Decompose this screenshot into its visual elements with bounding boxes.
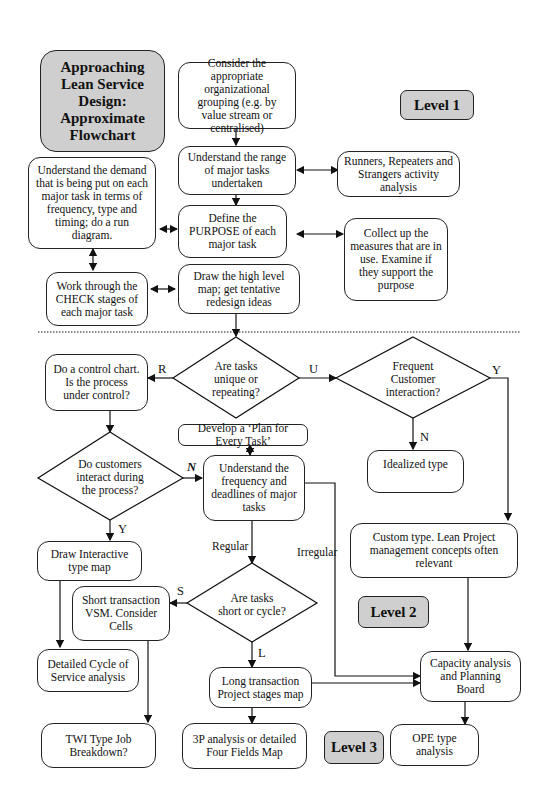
edge-label-irregular: Irregular	[297, 546, 337, 558]
node-range-of-tasks: Understand the range of major tasks unde…	[178, 146, 296, 195]
node-runners-repeaters: Runners, Repeaters and Strangers activit…	[337, 151, 460, 197]
node-check-stages: Work through the CHECK stages of each ma…	[46, 272, 148, 326]
node-high-level-map: Draw the high level map; get tentative r…	[178, 264, 300, 314]
node-capacity-analysis: Capacity analysis and Planning Board	[420, 651, 521, 702]
decision-short-or-cycle: Are tasks short or cycle?	[218, 585, 286, 625]
node-long-transaction: Long transaction Project stages map	[209, 667, 312, 708]
edge-label-regular: Regular	[212, 540, 248, 552]
node-control-chart: Do a control chart. Is the process under…	[45, 354, 148, 411]
node-twi-type: TWI Type Job Breakdown?	[41, 723, 156, 768]
node-ope-type: OPE type analysis	[390, 724, 479, 766]
edge-label-y-interact: Y	[118, 522, 127, 537]
node-organizational-grouping: Consider the appropriate organizational …	[178, 62, 296, 129]
node-interactive-map: Draw Interactive type map	[37, 541, 142, 581]
flowchart-title: Approaching Lean Service Design: Approxi…	[40, 50, 165, 152]
level-2-badge: Level 2	[358, 596, 429, 628]
edge-label-r: R	[158, 362, 166, 377]
node-frequency-deadlines: Understand the frequency and deadlines o…	[203, 455, 305, 521]
node-custom-type: Custom type. Lean Project management con…	[350, 523, 518, 578]
level-3-badge: Level 3	[324, 731, 384, 764]
edge-label-y-frequent: Y	[492, 363, 501, 378]
level-1-badge: Level 1	[400, 90, 474, 120]
edge-label-l: L	[258, 646, 266, 661]
node-idealized-type: Idealized type	[367, 450, 464, 493]
decision-unique-or-repeating: Are tasks unique or repeating?	[200, 358, 272, 400]
decision-frequent-customer: Frequent Customer interaction?	[372, 358, 454, 400]
node-plan-every-task: Develop a ‘Plan for Every Task’	[178, 424, 308, 446]
edge-label-n-frequent: N	[420, 430, 429, 445]
decision-customers-interact: Do customers interact during the process…	[68, 456, 152, 498]
node-cycle-of-service: Detailed Cycle of Service analysis	[37, 649, 139, 692]
edge-label-n-interact: N	[187, 460, 196, 475]
node-3p-analysis: 3P analysis or detailed Four Fields Map	[182, 723, 307, 769]
edge-label-u: U	[309, 362, 318, 377]
node-define-purpose: Define the PURPOSE of each major task	[178, 205, 287, 258]
node-understand-demand: Understand the demand that is being put …	[28, 157, 156, 249]
edge-label-s: S	[177, 584, 184, 599]
node-short-transaction: Short transaction VSM. Consider Cells	[72, 586, 170, 641]
node-collect-measures: Collect up the measures that are in use.…	[344, 218, 448, 301]
